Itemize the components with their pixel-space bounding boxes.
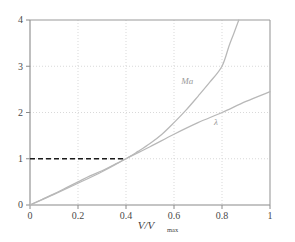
lambda-curve-label: λ	[213, 117, 218, 127]
x-tick-label: 0	[28, 210, 33, 221]
x-axis-title-main: V/V	[138, 219, 156, 231]
y-tick-label: 4	[18, 14, 23, 25]
y-tick-label: 3	[18, 61, 23, 72]
x-tick-label: 0.2	[72, 210, 85, 221]
x-tick-label: 0.6	[168, 210, 181, 221]
x-tick-label: 0.8	[216, 210, 229, 221]
chart-plot-svg: 01234 00.20.40.60.81 Ma λ V/V max	[0, 0, 295, 242]
x-axis-title-subscript: max	[167, 226, 179, 233]
y-tick-label: 2	[18, 107, 23, 118]
chart-figure: 01234 00.20.40.60.81 Ma λ V/V max	[0, 0, 295, 242]
y-tick-label: 0	[18, 199, 23, 210]
x-tick-label: 0.4	[120, 210, 133, 221]
y-tick-label: 1	[18, 153, 23, 164]
ma-curve-label: Ma	[180, 76, 193, 86]
x-tick-label: 1	[268, 210, 273, 221]
